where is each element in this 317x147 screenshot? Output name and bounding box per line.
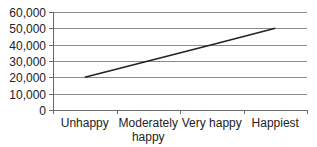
x-axis: UnhappyModeratelyhappyVery happyHappiest — [53, 110, 308, 144]
chart-canvas: 010,00020,00030,00040,00050,00060,000 Un… — [0, 0, 317, 147]
y-tick-label: 50,000 — [9, 22, 46, 36]
y-tick-label: 20,000 — [9, 71, 46, 85]
line-chart: 010,00020,00030,00040,00050,00060,000 Un… — [0, 0, 317, 147]
y-tick-label: 40,000 — [9, 39, 46, 53]
series-line — [85, 28, 275, 77]
x-tick-label: Unhappy — [61, 116, 109, 130]
y-axis: 010,00020,00030,00040,00050,00060,000 — [9, 6, 53, 118]
y-tick-label: 60,000 — [9, 6, 46, 20]
y-tick-label: 0 — [39, 104, 46, 118]
x-tick-label: Moderatelyhappy — [119, 116, 178, 144]
y-tick-label: 10,000 — [9, 88, 46, 102]
x-tick-label: Happiest — [252, 116, 300, 130]
data-series — [85, 28, 275, 77]
y-tick-label: 30,000 — [9, 55, 46, 69]
x-tick-label: Very happy — [182, 116, 242, 130]
